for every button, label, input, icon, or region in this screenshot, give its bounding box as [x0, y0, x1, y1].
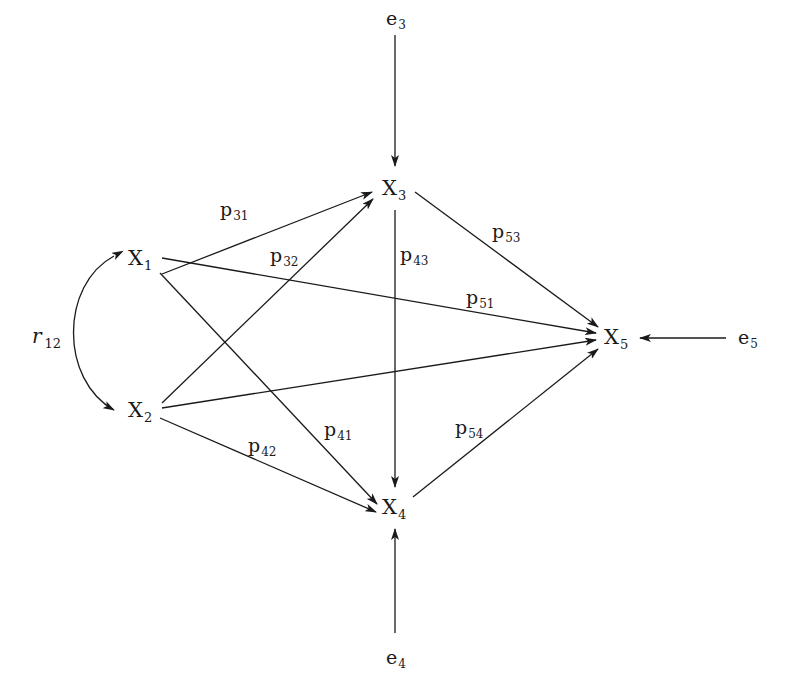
label-p31: p31: [220, 200, 248, 222]
error-e3-sub: 3: [398, 18, 406, 32]
label-p41: p41: [324, 420, 352, 442]
p51-base: p: [466, 286, 478, 308]
node-x3-base: X: [382, 176, 397, 200]
p32-sub: 32: [283, 255, 298, 269]
node-x4-base: X: [382, 495, 397, 519]
error-e4-base: e: [386, 646, 397, 668]
p53-base: p: [492, 220, 504, 242]
error-e3-base: e: [386, 7, 397, 29]
node-x5-base: X: [604, 325, 619, 349]
path-p31: [162, 192, 372, 274]
node-x3-sub: 3: [398, 188, 406, 203]
correlation-r12-label: r12: [32, 326, 61, 350]
correlation-r12-arrow: [74, 256, 115, 410]
label-p42: p42: [248, 436, 276, 458]
path-p41: [160, 273, 377, 504]
node-x4-sub: 4: [398, 507, 406, 522]
node-x4: X4: [382, 497, 406, 521]
node-x5-sub: 5: [620, 337, 628, 352]
p53-sub: 53: [505, 231, 520, 245]
correlation-sub: 12: [45, 336, 62, 351]
node-x1-sub: 1: [144, 258, 152, 273]
p54-sub: 54: [468, 427, 483, 441]
p31-sub: 31: [233, 209, 248, 223]
label-p51: p51: [466, 288, 494, 310]
node-x3: X3: [382, 178, 406, 202]
label-p43: p43: [400, 245, 428, 267]
error-e5: e5: [738, 328, 758, 350]
node-x5: X5: [604, 327, 628, 351]
label-p54: p54: [455, 418, 483, 440]
path-diagram-canvas: [0, 0, 790, 695]
p42-base: p: [248, 434, 260, 456]
error-e4-sub: 4: [398, 657, 406, 671]
correlation-base: r: [32, 324, 42, 348]
error-e4: e4: [386, 648, 406, 670]
path-p32: [162, 199, 373, 403]
error-e5-sub: 5: [750, 337, 758, 351]
node-x1: X1: [128, 248, 152, 272]
label-p53: p53: [492, 222, 520, 244]
p42-sub: 42: [261, 445, 276, 459]
p54-base: p: [455, 416, 467, 438]
node-x2: X2: [128, 400, 152, 424]
p41-sub: 41: [337, 429, 352, 443]
p51-sub: 51: [479, 297, 494, 311]
error-e3: e3: [386, 9, 406, 31]
path-p54: [413, 349, 598, 497]
p43-sub: 43: [413, 254, 428, 268]
p31-base: p: [220, 198, 232, 220]
node-x2-sub: 2: [144, 410, 152, 425]
path-x2-x5: [162, 340, 596, 408]
p41-base: p: [324, 418, 336, 440]
p43-base: p: [400, 243, 412, 265]
p32-base: p: [270, 244, 282, 266]
node-x2-base: X: [128, 398, 143, 422]
node-x1-base: X: [128, 246, 143, 270]
path-p51: [162, 258, 596, 333]
label-p32: p32: [270, 246, 298, 268]
error-e5-base: e: [738, 326, 749, 348]
